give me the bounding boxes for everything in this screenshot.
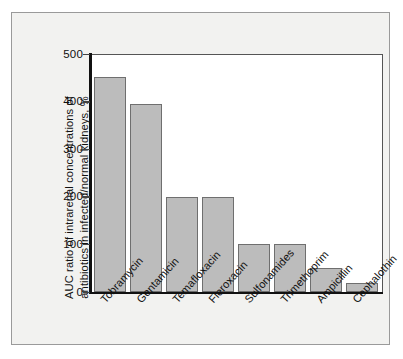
y-tick-mark-0: [83, 292, 90, 294]
y-tick-mark-400: [83, 101, 90, 103]
y-tick-mark-300: [83, 149, 90, 151]
y-tick-label-0: 0: [37, 286, 83, 298]
y-tick-mark-200: [83, 196, 90, 198]
y-tick-label-400: 400: [37, 95, 83, 107]
y-tick-mark-100: [83, 244, 90, 246]
chart-panel: AUC ratio of intrarenal concentrations o…: [11, 12, 390, 345]
y-tick-label-300: 300: [37, 143, 83, 155]
y-tick-label-200: 200: [37, 190, 83, 202]
x-axis-labels: Tobramycin Gentamicin Temafloxacin Flero…: [91, 297, 391, 359]
figure: AUC ratio of intrarenal concentrations o…: [0, 0, 403, 359]
bar-tobramycin: [94, 77, 126, 292]
y-tick-label-500: 500: [37, 48, 83, 60]
y-axis-title: AUC ratio of intrarenal concentrations o…: [34, 43, 74, 303]
y-tick-mark-500: [83, 54, 90, 56]
y-tick-label-100: 100: [37, 238, 83, 250]
